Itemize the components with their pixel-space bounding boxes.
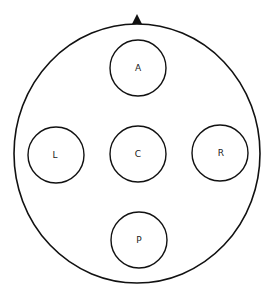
position-label: P [136,235,142,245]
position-label: R [218,148,224,158]
position-posterior: P [111,212,167,268]
position-anterior: A [110,40,166,96]
position-right: R [192,125,248,181]
position-center: C [110,126,166,182]
position-label: A [135,63,142,73]
position-label: L [52,150,57,160]
position-diagram: A L C R P [0,0,274,293]
diagram-canvas: A L C R P [0,0,274,293]
position-left: L [28,127,84,183]
position-label: C [135,149,141,159]
orientation-triangle-icon [132,14,142,24]
